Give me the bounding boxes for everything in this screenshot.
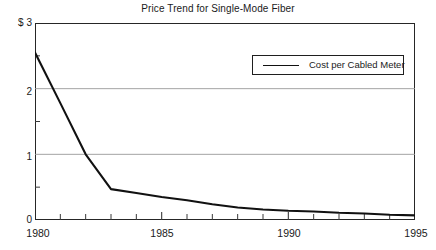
y-axis-tick-label-1: 1 [2, 151, 32, 162]
legend: Cost per Cabled Meter [252, 55, 404, 75]
page-title: Price Trend for Single-Mode Fiber [0, 3, 436, 14]
plot-canvas [35, 23, 415, 220]
x-axis-tick-label-1990: 1990 [269, 227, 309, 239]
y-axis-tick-label-2: 2 [2, 86, 32, 97]
x-axis-tick-label-1980: 1980 [18, 227, 58, 239]
legend-item-label: Cost per Cabled Meter [309, 59, 405, 70]
chart-page: Price Trend for Single-Mode Fiber $ 3 2 … [0, 0, 436, 250]
y-axis-minor-ticks [35, 56, 40, 187]
y-axis-tick-label-3: $ 3 [2, 17, 32, 28]
y-axis-tick-label-0: 0 [2, 214, 32, 225]
x-axis-tick-label-1995: 1995 [396, 227, 436, 239]
line-swatch-icon [263, 65, 299, 66]
x-axis-tick-label-1985: 1985 [142, 227, 182, 239]
data-series-line [35, 53, 415, 216]
gridlines [35, 89, 415, 155]
